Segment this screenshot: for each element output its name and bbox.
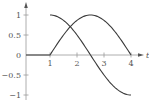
y-tick-label-neg1: −1 (9, 91, 21, 100)
x-tick-label-1: 1 (47, 59, 52, 68)
x-axis-arrow-icon (138, 53, 144, 57)
y-axis: 1 0.5 0 −0.5 −1 (2, 2, 29, 100)
y-tick-label-0.5: 0.5 (8, 31, 21, 40)
y-axis-arrow-icon (24, 2, 28, 8)
y-tick-label-1: 1 (16, 11, 21, 20)
y-tick-label-neg0.5: −0.5 (2, 71, 21, 80)
x-tick-label-4: 4 (128, 59, 133, 68)
x-axis-label: t (146, 51, 149, 60)
x-tick-label-2: 2 (74, 59, 79, 68)
line-chart: 1 0.5 0 −0.5 −1 1 2 3 4 t (0, 0, 149, 105)
curve-sine (26, 15, 131, 55)
x-axis: 1 2 3 4 t (26, 51, 149, 69)
y-tick-label-0: 0 (16, 51, 21, 60)
x-tick-label-3: 3 (101, 59, 106, 68)
